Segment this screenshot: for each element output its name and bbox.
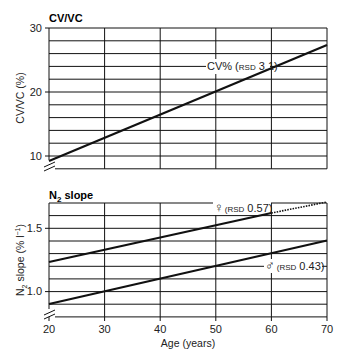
chart-figure: CV/VC <box>0 0 347 361</box>
x-tick-20: 20 <box>43 323 55 335</box>
panel-title-n2-slope: N2 slope <box>49 189 93 204</box>
female-symbol-icon: ♀ <box>214 200 224 215</box>
cv-vc-panel: CV/VC <box>14 12 327 171</box>
x-tick-60: 60 <box>265 323 277 335</box>
x-tick-40: 40 <box>154 323 166 335</box>
y-tick-10: 10 <box>30 150 42 162</box>
y-tick-20: 20 <box>30 86 42 98</box>
n2-slope-panel: N2 slope <box>14 189 333 349</box>
x-axis-label: Age (years) <box>161 337 215 349</box>
x-tick-50: 50 <box>210 323 222 335</box>
y-axis-label-cv-vc: CV/VC (%) <box>14 72 26 123</box>
female-line-extrapolated <box>271 202 327 213</box>
y-axis-label-n2-slope: N2 slope (% l−1) <box>14 224 28 296</box>
y-tick-1-5: 1.5 <box>27 222 42 234</box>
y-tick-30: 30 <box>30 22 42 34</box>
x-tick-70: 70 <box>321 323 333 335</box>
axis-break-icon <box>44 162 55 171</box>
x-tick-30: 30 <box>98 323 110 335</box>
panel-title-cv-vc: CV/VC <box>49 12 83 24</box>
top-gridlines <box>45 28 327 169</box>
male-symbol-icon: ♂ <box>265 258 275 273</box>
y-tick-1-0: 1.0 <box>27 285 42 297</box>
